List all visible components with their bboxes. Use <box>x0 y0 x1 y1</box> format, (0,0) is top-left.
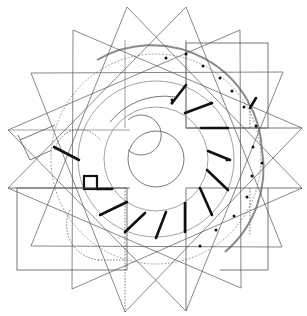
node-dot <box>233 215 236 218</box>
node-dot <box>185 53 188 56</box>
node-dot <box>252 146 255 149</box>
node-dot <box>255 125 258 128</box>
node-dot <box>171 102 174 105</box>
geometric-star-diagram <box>0 0 307 316</box>
node-dot <box>202 65 205 68</box>
node-dot <box>171 99 174 102</box>
node-dot <box>231 90 234 93</box>
node-dot <box>165 57 168 60</box>
node-dot <box>246 196 249 199</box>
node-dot <box>261 162 264 165</box>
node-dot <box>251 175 254 178</box>
node-dot <box>226 159 229 162</box>
node-dot <box>243 106 246 109</box>
node-dot <box>199 245 202 248</box>
node-dot <box>215 229 218 232</box>
node-dot <box>219 77 222 80</box>
node-dot <box>210 102 213 105</box>
